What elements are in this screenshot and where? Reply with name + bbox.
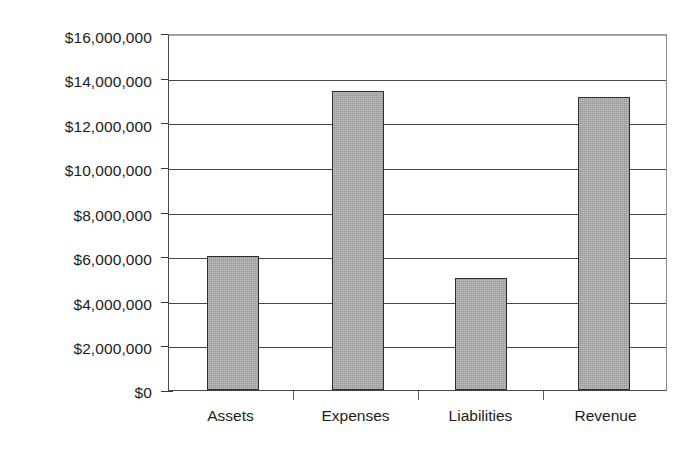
x-axis-category-label-expenses: Expenses bbox=[293, 406, 418, 426]
x-axis-category-label-liabilities: Liabilities bbox=[418, 406, 543, 426]
x-axis-tick-mark-1 bbox=[293, 391, 294, 400]
bar-assets bbox=[207, 256, 259, 390]
y-axis-tick-mark-0 bbox=[161, 391, 173, 392]
y-axis-tick-label-14000000: $14,000,000 bbox=[0, 74, 152, 90]
y-axis-tick-label-6000000: $6,000,000 bbox=[0, 252, 152, 268]
y-axis-tick-label-10000000: $10,000,000 bbox=[0, 163, 152, 179]
y-axis-tick-label-16000000: $16,000,000 bbox=[0, 30, 152, 46]
bar-chart: $16,000,000 $14,000,000 $12,000,000 $10,… bbox=[0, 0, 696, 455]
x-axis-category-label-assets: Assets bbox=[168, 406, 293, 426]
bar-liabilities bbox=[455, 278, 507, 390]
y-axis-tick-label-4000000: $4,000,000 bbox=[0, 297, 152, 313]
bar-expenses bbox=[332, 91, 384, 390]
x-axis-tick-mark-3 bbox=[543, 391, 544, 400]
y-axis-tick-label-8000000: $8,000,000 bbox=[0, 208, 152, 224]
y-axis-tick-label-2000000: $2,000,000 bbox=[0, 341, 152, 357]
y-axis-tick-label-0: $0 bbox=[0, 385, 152, 401]
x-axis-tick-mark-2 bbox=[418, 391, 419, 400]
bar-revenue bbox=[578, 97, 630, 390]
gridline-16000000 bbox=[169, 35, 666, 36]
gridline-14000000 bbox=[169, 80, 666, 81]
y-axis-tick-label-12000000: $12,000,000 bbox=[0, 119, 152, 135]
x-axis-category-label-revenue: Revenue bbox=[543, 406, 668, 426]
plot-area bbox=[168, 34, 667, 391]
